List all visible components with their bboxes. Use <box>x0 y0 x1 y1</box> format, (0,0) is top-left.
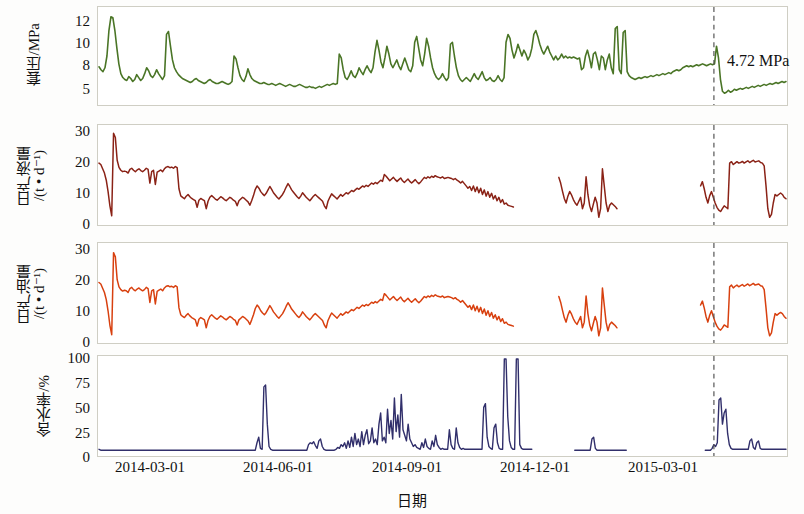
ytick-p4-75: 75 <box>50 376 90 391</box>
annotation-casing-pressure-value: 4.72 MPa <box>727 52 789 70</box>
xaxis-title: 日期 <box>382 489 442 510</box>
ylabel-daily-liquid-main: 日产液量 <box>17 146 32 206</box>
ytick-p3-30: 30 <box>58 242 90 257</box>
ytick-p2-20: 20 <box>58 155 90 170</box>
panel-daily-oil <box>97 242 788 344</box>
panel-daily-oil-plot <box>98 243 787 343</box>
ylabel-casing-pressure-text: 套压/MPa <box>27 23 42 86</box>
xtick-3: 2014-12-01 <box>485 459 585 476</box>
ytick-p2-0: 0 <box>58 217 90 232</box>
ylabel-daily-oil-unit: /(t • d⁻¹) <box>32 268 47 319</box>
panel-water-cut <box>97 355 788 457</box>
ylabel-daily-liquid-unit: /(t • d⁻¹) <box>32 150 47 201</box>
figure-root: 套压/MPa 12 10 8 5 4.72 MPa 日产液量 /(t • d⁻¹… <box>0 0 804 514</box>
ylabel-daily-oil: 日产油量 /(t • d⁻¹) <box>2 242 62 346</box>
ytick-p2-30: 30 <box>58 124 90 139</box>
ytick-p4-25: 25 <box>50 426 90 441</box>
series-daily-oil <box>99 253 786 336</box>
ytick-p4-50: 50 <box>50 401 90 416</box>
xtick-4: 2015-03-01 <box>613 459 713 476</box>
ylabel-daily-liquid: 日产液量 /(t • d⁻¹) <box>2 124 62 228</box>
series-water-cut <box>99 359 786 450</box>
xtick-0: 2014-03-01 <box>100 459 200 476</box>
panel-casing-pressure-plot <box>98 7 787 105</box>
panel-daily-liquid <box>97 124 788 226</box>
ytick-p1-5: 5 <box>58 82 90 97</box>
ylabel-daily-oil-main: 日产油量 <box>17 264 32 324</box>
series-daily-liquid <box>99 133 786 217</box>
ytick-p3-0: 0 <box>58 335 90 350</box>
xtick-2: 2014-09-01 <box>357 459 457 476</box>
ylabel-casing-pressure: 套压/MPa <box>6 4 62 104</box>
ytick-p2-10: 10 <box>58 186 90 201</box>
series-casing-pressure <box>99 17 786 93</box>
ytick-p4-100: 100 <box>50 351 90 366</box>
panel-water-cut-plot <box>98 356 787 456</box>
panel-casing-pressure <box>97 6 788 106</box>
ytick-p4-0: 0 <box>50 450 90 465</box>
ytick-p1-12: 12 <box>58 14 90 29</box>
panel-daily-liquid-plot <box>98 125 787 225</box>
ytick-p1-8: 8 <box>58 58 90 73</box>
ytick-p1-10: 10 <box>58 36 90 51</box>
ytick-p3-20: 20 <box>58 273 90 288</box>
xtick-1: 2014-06-01 <box>228 459 328 476</box>
ytick-p3-10: 10 <box>58 304 90 319</box>
